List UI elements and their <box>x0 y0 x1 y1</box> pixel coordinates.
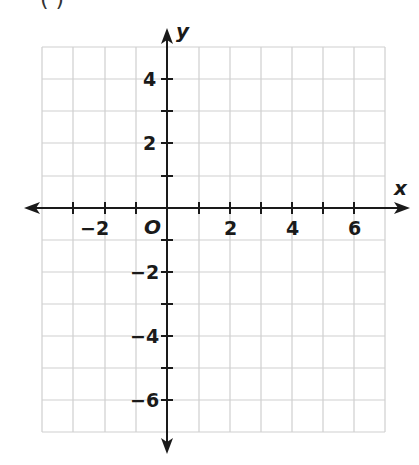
y-tick-label: −2 <box>130 261 159 283</box>
cropped-header-text: ( ) <box>40 0 64 11</box>
x-axis-label: x <box>393 176 408 200</box>
y-tick-label: 2 <box>143 132 156 154</box>
y-tick-label: 4 <box>143 68 156 90</box>
x-tick-label: −2 <box>80 217 109 239</box>
y-tick-label: −4 <box>130 325 159 347</box>
origin-label: O <box>144 215 161 239</box>
x-axis <box>32 202 402 214</box>
x-tick-label: 6 <box>348 217 361 239</box>
coordinate-plane: ( ) <box>0 0 419 465</box>
x-tick-label: 2 <box>224 217 237 239</box>
grid <box>42 47 385 432</box>
y-tick-label: −6 <box>130 389 159 411</box>
x-tick-label: 4 <box>286 217 299 239</box>
y-axis <box>161 36 173 446</box>
y-axis-label: y <box>176 19 190 43</box>
